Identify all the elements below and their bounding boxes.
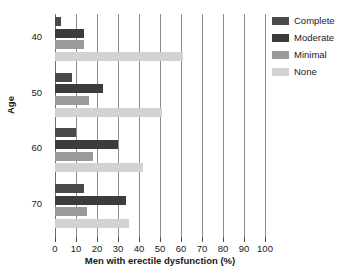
x-tick (139, 237, 140, 242)
gridline (160, 14, 161, 237)
gridline (244, 14, 245, 237)
x-tick (97, 237, 98, 242)
y-axis-title: Age (5, 96, 16, 114)
x-tick (265, 237, 266, 242)
bar (55, 40, 84, 49)
bar (55, 52, 183, 61)
bar (55, 29, 84, 38)
x-tick-label: 100 (250, 243, 280, 254)
bar (55, 84, 103, 93)
legend-item: None (272, 63, 348, 80)
legend-swatch-icon (272, 51, 289, 59)
bar (55, 152, 93, 161)
gridline (139, 14, 140, 237)
gridline (223, 14, 224, 237)
bar (55, 163, 143, 172)
plot-area (55, 14, 265, 237)
bar (55, 17, 61, 26)
y-tick-label: 40 (16, 31, 42, 42)
x-tick (76, 237, 77, 242)
x-tick (118, 237, 119, 242)
gridline (181, 14, 182, 237)
gridline (202, 14, 203, 237)
legend-divider (265, 14, 266, 237)
y-tick-label: 60 (16, 142, 42, 153)
legend-label: Minimal (294, 49, 327, 60)
legend-item: Minimal (272, 46, 348, 63)
chart-figure: 0102030405060708090100 40506070 Men with… (0, 0, 349, 271)
legend-item: Complete (272, 12, 348, 29)
x-tick (223, 237, 224, 242)
y-tick-label: 50 (16, 87, 42, 98)
bar (55, 140, 118, 149)
bar (55, 73, 72, 82)
x-tick (181, 237, 182, 242)
bar (55, 184, 84, 193)
x-tick (55, 237, 56, 242)
bar (55, 196, 126, 205)
bar (55, 96, 89, 105)
x-tick (244, 237, 245, 242)
legend-label: Complete (294, 15, 335, 26)
legend: CompleteModerateMinimalNone (272, 12, 348, 80)
x-axis-title: Men with erectile dysfunction (%) (55, 255, 265, 266)
bar (55, 108, 162, 117)
legend-swatch-icon (272, 17, 289, 25)
y-tick-label: 70 (16, 198, 42, 209)
bar (55, 128, 76, 137)
legend-swatch-icon (272, 34, 289, 42)
x-tick (160, 237, 161, 242)
bar (55, 207, 87, 216)
legend-label: Moderate (294, 32, 334, 43)
x-tick (202, 237, 203, 242)
bar (55, 219, 129, 228)
legend-label: None (294, 66, 317, 77)
legend-swatch-icon (272, 68, 289, 76)
legend-item: Moderate (272, 29, 348, 46)
